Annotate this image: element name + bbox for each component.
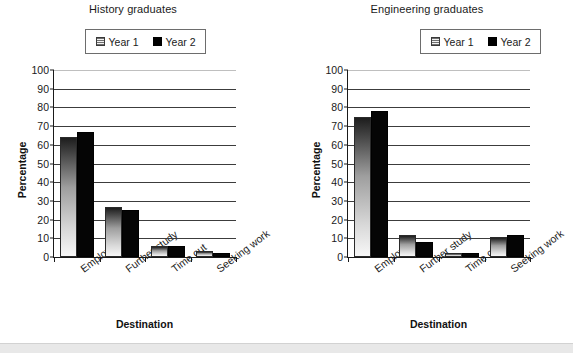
x-tick-mark	[236, 257, 237, 262]
y-tick-label: 20	[331, 214, 343, 226]
x-tick-mark	[145, 257, 146, 262]
bar-group	[54, 70, 100, 257]
chart-panel-history: History graduates Year 1 Year 2 Percenta…	[0, 0, 286, 344]
y-tick-label: 20	[37, 214, 49, 226]
y-tick-label: 10	[37, 232, 49, 244]
bar-year2	[462, 253, 479, 257]
bar-year2	[371, 111, 388, 257]
chart-panel-engineering: Engineering graduates Year 1 Year 2 Perc…	[287, 0, 573, 344]
figure-canvas: History graduates Year 1 Year 2 Percenta…	[0, 0, 573, 353]
bar-year1	[399, 235, 416, 257]
x-tick-mark	[394, 257, 395, 262]
y-tick-label: 80	[37, 101, 49, 113]
chart-title-engineering: Engineering graduates	[307, 3, 547, 15]
bar-group	[439, 70, 485, 257]
bar-year1	[445, 253, 462, 257]
legend-entry-year1: Year 1	[431, 36, 474, 48]
x-tick-mark	[100, 257, 101, 262]
x-tick-mark	[485, 257, 486, 262]
bar-year1	[196, 251, 213, 257]
y-tick-label: 40	[37, 176, 49, 188]
bar-group	[348, 70, 394, 257]
legend-entry-year2: Year 2	[153, 36, 196, 48]
x-tick-mark	[191, 257, 192, 262]
category-labels-history: EmployedFurther studyTime outSeeking wor…	[54, 257, 236, 317]
y-tick-label: 30	[37, 195, 49, 207]
legend-engineering: Year 1 Year 2	[420, 29, 541, 54]
y-tick-label: 100	[325, 64, 343, 76]
bar-year2	[416, 242, 433, 257]
bar-groups	[54, 70, 236, 257]
bar-group	[100, 70, 146, 257]
x-tick-mark	[348, 257, 349, 262]
bar-year2	[168, 246, 185, 257]
bar-groups	[348, 70, 530, 257]
legend-entry-year1: Year 1	[96, 36, 139, 48]
y-tick-label: 30	[331, 195, 343, 207]
bar-group	[145, 70, 191, 257]
bar-year1	[490, 237, 507, 257]
y-tick-label: 80	[331, 101, 343, 113]
bar-year1	[151, 246, 168, 257]
y-tick-label: 90	[331, 83, 343, 95]
legend-entry-year2: Year 2	[488, 36, 531, 48]
x-tick-mark	[530, 257, 531, 262]
plot-area-engineering: EmployedFurther studyTime outSeeking wor…	[347, 70, 530, 258]
plot-area-history: EmployedFurther studyTime outSeeking wor…	[53, 70, 236, 258]
x-axis-title-engineering: Destination	[347, 318, 530, 330]
y-tick-label: 50	[331, 158, 343, 170]
bar-group	[191, 70, 237, 257]
bar-group	[485, 70, 531, 257]
legend-label-year2: Year 2	[501, 36, 531, 48]
legend-label-year1: Year 1	[444, 36, 474, 48]
bar-year1	[105, 207, 122, 257]
chart-title-history: History graduates	[13, 3, 253, 15]
y-axis-title-history: Percentage	[16, 130, 28, 210]
y-tick-label: 70	[37, 120, 49, 132]
y-tick-label: 60	[37, 139, 49, 151]
y-tick-label: 100	[31, 64, 49, 76]
y-tick-label: 60	[331, 139, 343, 151]
bar-year2	[213, 253, 230, 257]
bar-year2	[507, 235, 524, 257]
bar-year2	[77, 132, 94, 257]
y-tick-label: 0	[43, 251, 49, 263]
bar-year2	[122, 210, 139, 257]
y-axis-title-engineering: Percentage	[310, 130, 322, 210]
x-tick-mark	[439, 257, 440, 262]
legend-swatch-year2-icon	[153, 37, 162, 46]
x-tick-mark	[54, 257, 55, 262]
x-axis-title-history: Destination	[53, 318, 236, 330]
y-tick-label: 50	[37, 158, 49, 170]
legend-history: Year 1 Year 2	[85, 29, 206, 54]
bar-year1	[354, 117, 371, 257]
y-tick-label: 10	[331, 232, 343, 244]
bar-year1	[60, 137, 77, 257]
legend-label-year1: Year 1	[109, 36, 139, 48]
y-tick-label: 70	[331, 120, 343, 132]
legend-swatch-year1-icon	[96, 37, 105, 46]
bar-group	[394, 70, 440, 257]
y-tick-label: 90	[37, 83, 49, 95]
legend-swatch-year2-icon	[488, 37, 497, 46]
legend-swatch-year1-icon	[431, 37, 440, 46]
page-footer-band	[0, 343, 573, 353]
legend-label-year2: Year 2	[166, 36, 196, 48]
y-tick-label: 0	[337, 251, 343, 263]
category-labels-engineering: EmployedFurther studyTime outSeeking wor…	[348, 257, 530, 317]
y-tick-label: 40	[331, 176, 343, 188]
